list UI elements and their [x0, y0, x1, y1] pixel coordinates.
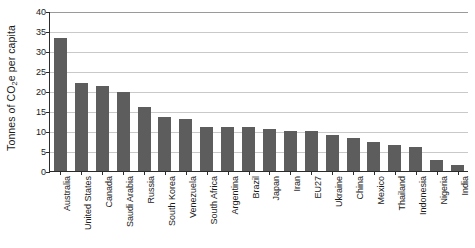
bar[interactable] — [179, 119, 192, 171]
y-axis-tick-label: 35 — [36, 28, 46, 37]
x-axis-tick-mark — [144, 172, 145, 175]
x-axis-tick-mark — [186, 172, 187, 175]
x-axis-tick-mark — [123, 172, 124, 175]
x-axis-tick-mark — [416, 172, 417, 175]
y-axis-tick-mark — [46, 92, 50, 93]
y-axis-tick-mark — [46, 12, 50, 13]
x-axis-tick-mark — [290, 172, 291, 175]
plot-wrapper: 0510152025303540 — [24, 12, 472, 176]
bar[interactable] — [54, 38, 67, 171]
x-axis-category-label: Nigeria — [440, 176, 449, 205]
bar[interactable] — [200, 127, 213, 171]
x-axis-tick-mark — [374, 172, 375, 175]
y-axis-tick-mark — [46, 112, 50, 113]
x-axis-category-label: China — [356, 176, 365, 200]
bar-chart: Tonnes of CO2e per capita 05101520253035… — [0, 0, 475, 248]
y-axis-tick-label: 25 — [36, 68, 46, 77]
x-axis-category-label: United States — [84, 176, 93, 230]
x-axis-tick-mark — [165, 172, 166, 175]
y-axis-tick-mark — [46, 52, 50, 53]
x-axis-tick-mark — [228, 172, 229, 175]
bar[interactable] — [158, 117, 171, 171]
bar[interactable] — [75, 83, 88, 171]
y-axis-title-text: Tonnes of CO2e per capita — [5, 25, 17, 151]
y-axis-title-subscript: 2 — [10, 81, 19, 85]
x-axis-category-label: Japan — [272, 176, 281, 201]
bar[interactable] — [388, 145, 401, 171]
y-axis-tick-mark — [46, 132, 50, 133]
bar[interactable] — [451, 165, 464, 171]
x-axis-category-label: Argentina — [231, 176, 240, 215]
y-axis-tick-label: 10 — [36, 128, 46, 137]
x-axis-category-label: Russia — [147, 176, 156, 204]
x-axis-category-label: EU27 — [314, 176, 323, 199]
bar[interactable] — [221, 127, 234, 171]
y-axis-title: Tonnes of CO2e per capita — [0, 0, 22, 176]
x-axis-category-label: Venezuela — [189, 176, 198, 218]
x-axis-tick-mark — [102, 172, 103, 175]
x-axis-category-label: Thailand — [398, 176, 407, 211]
bar[interactable] — [347, 138, 360, 171]
y-axis-tick-mark — [46, 32, 50, 33]
x-axis-category-label: Iran — [293, 176, 302, 192]
x-axis-category-label: Ukraine — [335, 176, 344, 207]
x-axis-tick-mark — [458, 172, 459, 175]
y-axis-tick-label: 20 — [36, 88, 46, 97]
y-axis-title-before: Tonnes of CO — [5, 85, 17, 150]
y-axis-tick-label: 15 — [36, 108, 46, 117]
y-axis-tick-mark — [46, 72, 50, 73]
x-axis-category-labels: AustraliaUnited StatesCanadaSaudi Arabia… — [49, 176, 471, 248]
x-axis-tick-mark — [249, 172, 250, 175]
x-axis-category-label: Brazil — [252, 176, 261, 199]
y-axis-tick-mark — [46, 152, 50, 153]
bar[interactable] — [430, 160, 443, 171]
bar-series — [50, 12, 468, 171]
bar[interactable] — [263, 129, 276, 171]
x-axis-category-label: Canada — [105, 176, 114, 208]
plot-area — [49, 12, 468, 172]
bar[interactable] — [305, 131, 318, 171]
bar[interactable] — [138, 107, 151, 171]
x-axis-category-label: Indonesia — [419, 176, 428, 215]
x-axis-tick-mark — [207, 172, 208, 175]
x-axis-category-label: Mexico — [377, 176, 386, 205]
x-axis-category-label: Saudi Arabia — [126, 176, 135, 227]
x-axis-category-label: Australia — [63, 176, 72, 211]
x-axis-category-label: India — [461, 176, 470, 196]
y-axis-tick-label: 40 — [36, 8, 46, 17]
x-axis-tick-mark — [437, 172, 438, 175]
x-axis-tick-mark — [332, 172, 333, 175]
bar[interactable] — [117, 92, 130, 171]
x-axis-category-label: South Africa — [210, 176, 219, 225]
x-axis-tick-mark — [81, 172, 82, 175]
x-axis-tick-mark — [269, 172, 270, 175]
x-axis-tick-mark — [311, 172, 312, 175]
x-axis-tick-mark — [353, 172, 354, 175]
bar[interactable] — [409, 147, 422, 171]
x-axis-tick-mark — [395, 172, 396, 175]
bar[interactable] — [326, 135, 339, 171]
x-axis-tick-mark — [60, 172, 61, 175]
bar[interactable] — [367, 142, 380, 171]
y-axis-tick-label: 30 — [36, 48, 46, 57]
bar[interactable] — [96, 86, 109, 171]
bar[interactable] — [284, 131, 297, 171]
x-axis-category-label: South Korea — [168, 176, 177, 226]
y-axis-title-after: e per capita — [5, 25, 17, 81]
y-axis-tick-labels: 0510152025303540 — [24, 12, 46, 176]
y-axis-tick-mark — [46, 172, 50, 173]
bar[interactable] — [242, 127, 255, 171]
